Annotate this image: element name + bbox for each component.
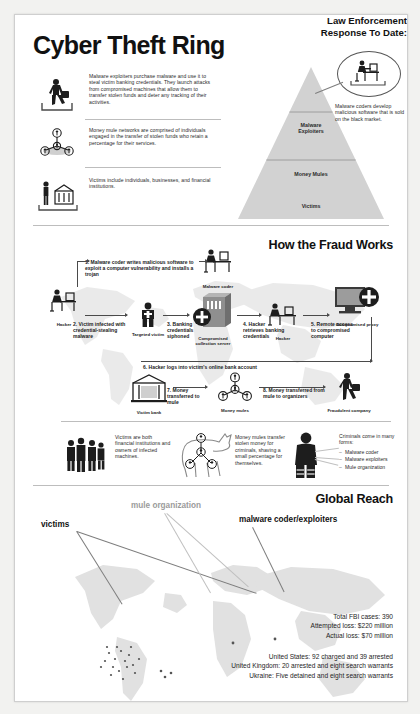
criminals-list-item: Malware exploiters <box>345 456 387 462</box>
flow-node-caption: Malware coder <box>197 284 239 289</box>
page-title: Cyber Theft Ring <box>33 31 225 60</box>
law-enforcement-figures: Total FBI cases: 390 Attempted loss: $22… <box>133 612 393 640</box>
section-divider-3 <box>33 485 389 486</box>
mule-network-icon <box>37 127 77 165</box>
hierarchy-text-exploiters: Malware exploiters purchase malware and … <box>89 73 217 105</box>
flow-node-fraudulent-company: Fraudulent company <box>327 371 371 413</box>
fraud-section-title: How the Fraud Works <box>269 238 393 252</box>
fraud-step-3: 3. Banking credentials siphoned <box>167 321 207 340</box>
poster-sheet: Cyber Theft Ring <box>14 14 408 702</box>
section-divider-2 <box>61 421 391 422</box>
global-section-title: Global Reach <box>316 492 393 506</box>
flow-node-money-mules: Money mules <box>211 371 259 413</box>
hierarchy-text-mules: Money mule networks are comprised of ind… <box>89 127 211 146</box>
flow-arrow-coder-drop <box>77 261 78 287</box>
divider-2 <box>85 167 221 168</box>
flow-arrow-hacker-victim <box>85 315 127 316</box>
reach-label-mule-organization: mule organization <box>131 501 201 510</box>
criminals-list-item: Mule organization <box>345 464 385 470</box>
fraud-step-6: 6. Hacker logs into victim's online bank… <box>143 364 353 370</box>
flow-node-caption: Victim bank <box>127 410 171 415</box>
reach-label-malware-coder-exploiters: malware coder/exploiters <box>239 515 337 524</box>
flow-arrow-victim-server <box>163 315 189 316</box>
criminals-list-item: Malware coder <box>345 449 378 455</box>
figure-row: Attempted loss: $220 million <box>133 621 393 630</box>
fraud-step-2: 2. Victim infected with credential-steal… <box>73 321 129 340</box>
flow-arrow-server-hacker <box>237 315 261 316</box>
divider-1 <box>85 119 221 120</box>
donkey-mule-network-icon <box>175 429 233 485</box>
thief-with-bag-icon <box>37 77 77 117</box>
country-row: United Kingdom: 20 arrested and eight se… <box>63 661 393 670</box>
flow-node-victim-bank: Victim bank <box>127 371 171 415</box>
flow-node-malware-coder: Malware coder <box>197 247 239 289</box>
crowd-of-people-icon <box>63 433 107 477</box>
flow-node-caption: Targeted victim <box>131 332 165 337</box>
hierarchy-text-victims: Victims include individuals, businesses,… <box>89 177 217 190</box>
pyramid-tier-victims: Victims <box>238 203 384 209</box>
flow-arrow-coder-label <box>77 261 89 262</box>
flow-arrow-mules-company <box>259 387 325 388</box>
person-and-bank-icon <box>37 178 81 216</box>
law-enforcement-countries: United States: 92 charged and 39 arreste… <box>63 652 393 680</box>
summary-mules-text: Money mules transfer stolen money for cr… <box>235 434 287 466</box>
flow-arrow-to-coder <box>199 261 207 262</box>
flow-arrow-bank-mules <box>173 387 207 388</box>
section-divider-1 <box>33 225 389 226</box>
flow-arrow-step6 <box>141 361 372 362</box>
country-row: Ukraine: Five detained and eight search … <box>63 671 393 680</box>
reach-label-victims: victims <box>41 520 69 529</box>
law-title-line1: Law Enforcement <box>327 15 407 26</box>
criminals-list: –Malware coder –Malware exploiters –Mule… <box>339 449 405 471</box>
poster-page: Cyber Theft Ring <box>0 0 420 714</box>
country-row: United States: 92 charged and 39 arreste… <box>63 652 393 661</box>
criminals-heading: Criminals come in many forms: <box>339 433 401 446</box>
fraud-step-4: 4. Hacker retrieves banking credentials <box>243 321 287 340</box>
flow-node-targeted-victim: Targeted victim <box>131 301 165 337</box>
fraud-step-8: 8. Money transferred from mule to organi… <box>263 387 327 399</box>
pyramid-tier-exploiters: MalwareExploiters <box>238 122 384 135</box>
flow-arrow-proxy-down <box>371 317 372 361</box>
law-title-line2: Response To Date: <box>321 27 407 38</box>
flow-arrow-hacker-proxy <box>303 315 329 316</box>
summary-victims-text: Victims are both financial institutions … <box>115 434 171 460</box>
fraud-step-7: 7. Money transferred to mule <box>167 387 209 406</box>
pyramid-tier-mules: Money Mules <box>238 171 384 177</box>
coder-at-desk-icon <box>349 59 387 91</box>
fraud-step-1: 1. Malware coder writes malicious softwa… <box>85 259 197 278</box>
coder-callout-text: Malware coders develop malicious softwar… <box>335 103 405 122</box>
figure-row: Total FBI cases: 390 <box>133 612 393 621</box>
flow-node-caption: Money mules <box>211 408 259 413</box>
fraud-step-5: 5. Remote access to compromised computer <box>311 321 355 340</box>
figure-row: Actual loss: $70 million <box>133 631 393 640</box>
flow-node-caption: Fraudulent company <box>327 408 371 413</box>
